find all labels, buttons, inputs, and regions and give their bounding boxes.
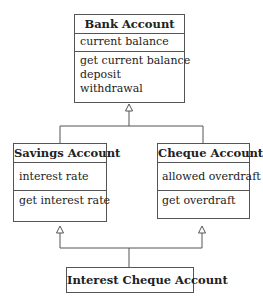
hollow-triangle-arrow-icon [199, 226, 206, 233]
operations-section: get overdraft [158, 191, 249, 208]
attributes-section: allowed overdraft [158, 163, 249, 191]
attribute: current balance [80, 35, 184, 49]
operation: deposit [80, 68, 184, 82]
class-name: Bank Account [75, 15, 184, 34]
attributes-section: current balance [75, 34, 184, 52]
class-name: Interest Cheque Account [67, 268, 193, 292]
attribute: allowed overdraft [162, 163, 249, 190]
class-savings-account[interactable]: Savings Account interest rate get intere… [13, 143, 107, 222]
operation: get overdraft [162, 194, 249, 208]
class-bank-account[interactable]: Bank Account current balance get current… [74, 14, 185, 103]
hollow-triangle-arrow-icon [126, 104, 133, 111]
class-name: Savings Account [14, 144, 106, 163]
generalization-from-interest-cheque [57, 226, 206, 267]
attribute: interest rate [19, 163, 106, 190]
operations-section: get interest rate [14, 191, 106, 208]
hollow-triangle-arrow-icon [57, 226, 64, 233]
operations-section: get current balance deposit withdrawal [75, 52, 184, 96]
operation: withdrawal [80, 82, 184, 96]
operation: get interest rate [19, 194, 106, 208]
class-cheque-account[interactable]: Cheque Account allowed overdraft get ove… [157, 143, 250, 219]
generalization-to-bank-account [60, 104, 203, 143]
attributes-section: interest rate [14, 163, 106, 191]
operation: get current balance [80, 54, 184, 68]
class-name: Cheque Account [158, 144, 249, 163]
class-interest-cheque-account[interactable]: Interest Cheque Account [66, 267, 194, 293]
